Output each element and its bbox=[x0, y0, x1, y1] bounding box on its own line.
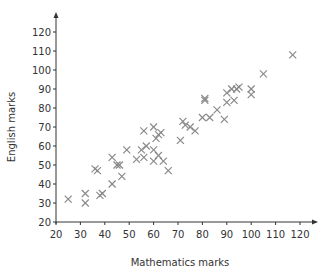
data-point-x-marker bbox=[179, 118, 186, 125]
data-point-x-marker bbox=[109, 154, 116, 161]
x-tick-label: 20 bbox=[50, 229, 63, 240]
data-point-x-marker bbox=[223, 89, 230, 96]
data-point-x-marker bbox=[65, 196, 72, 203]
x-axis-label: Mathematics marks bbox=[131, 257, 230, 268]
data-point-x-marker bbox=[192, 127, 199, 134]
data-point-x-marker bbox=[133, 156, 140, 163]
data-point-x-marker bbox=[160, 158, 167, 165]
data-point-x-marker bbox=[99, 190, 106, 197]
data-point-x-marker bbox=[248, 86, 255, 93]
y-tick-label: 120 bbox=[32, 27, 51, 38]
y-tick-label: 110 bbox=[32, 46, 51, 57]
y-tick-label: 30 bbox=[38, 198, 51, 209]
x-tick-label: 110 bbox=[266, 229, 285, 240]
data-point-x-marker bbox=[109, 181, 116, 188]
x-tick-label: 120 bbox=[290, 229, 309, 240]
x-tick-label: 100 bbox=[242, 229, 261, 240]
x-tick-label: 60 bbox=[147, 229, 160, 240]
chart-svg: 2030405060708090100110120203040506070809… bbox=[0, 0, 320, 276]
scatter-chart: 2030405060708090100110120203040506070809… bbox=[0, 0, 320, 276]
data-point-x-marker bbox=[82, 200, 89, 207]
data-point-x-marker bbox=[143, 143, 150, 150]
y-tick-label: 80 bbox=[38, 103, 51, 114]
x-tick-label: 90 bbox=[220, 229, 233, 240]
data-point-x-marker bbox=[214, 106, 221, 113]
data-point-x-marker bbox=[140, 154, 147, 161]
data-point-x-marker bbox=[138, 146, 145, 153]
data-points bbox=[65, 51, 296, 206]
y-tick-label: 70 bbox=[38, 122, 51, 133]
data-point-x-marker bbox=[221, 116, 228, 123]
data-point-x-marker bbox=[165, 167, 172, 174]
data-point-x-marker bbox=[260, 70, 267, 77]
data-point-x-marker bbox=[94, 167, 101, 174]
data-point-x-marker bbox=[118, 173, 125, 180]
y-tick-label: 50 bbox=[38, 160, 51, 171]
data-point-x-marker bbox=[150, 124, 157, 131]
data-point-x-marker bbox=[157, 129, 164, 136]
x-tick-label: 70 bbox=[172, 229, 185, 240]
y-tick-label: 90 bbox=[38, 84, 51, 95]
x-tick-label: 80 bbox=[196, 229, 209, 240]
x-tick-label: 50 bbox=[123, 229, 136, 240]
y-tick-label: 100 bbox=[32, 65, 51, 76]
data-point-x-marker bbox=[82, 190, 89, 197]
data-point-x-marker bbox=[140, 127, 147, 134]
x-tick-label: 40 bbox=[98, 229, 111, 240]
y-axis-label: English marks bbox=[6, 92, 17, 162]
data-point-x-marker bbox=[206, 114, 213, 121]
data-point-x-marker bbox=[289, 51, 296, 58]
x-axis-arrow-icon bbox=[312, 220, 318, 225]
axes: 2030405060708090100110120203040506070809… bbox=[32, 12, 318, 240]
y-axis-arrow-icon bbox=[54, 12, 59, 18]
data-point-x-marker bbox=[223, 99, 230, 106]
data-point-x-marker bbox=[236, 84, 243, 91]
data-point-x-marker bbox=[231, 97, 238, 104]
x-tick-label: 30 bbox=[74, 229, 87, 240]
data-point-x-marker bbox=[177, 137, 184, 144]
y-tick-label: 20 bbox=[38, 217, 51, 228]
y-tick-label: 60 bbox=[38, 141, 51, 152]
y-tick-label: 40 bbox=[38, 179, 51, 190]
data-point-x-marker bbox=[123, 146, 130, 153]
data-point-x-marker bbox=[199, 114, 206, 121]
